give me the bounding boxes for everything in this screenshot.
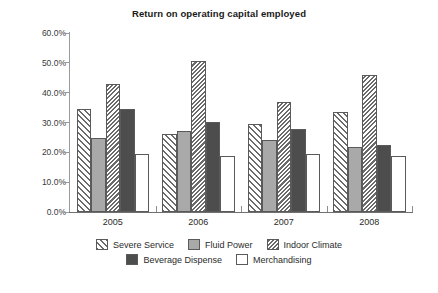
bar-group: 2006 xyxy=(156,33,242,212)
bar[interactable] xyxy=(333,112,348,212)
bar-group-bars xyxy=(327,33,419,212)
bar[interactable] xyxy=(248,124,263,212)
bar[interactable] xyxy=(206,122,221,212)
bar-group-bars xyxy=(70,33,162,212)
bar-group: 2008 xyxy=(327,33,413,212)
legend-entry[interactable]: Merchandising xyxy=(236,254,312,265)
legend-swatch-icon xyxy=(188,239,200,250)
y-tick-label: 20.0% xyxy=(42,147,66,157)
legend-swatch-icon xyxy=(267,239,279,250)
bar[interactable] xyxy=(306,154,321,212)
bar[interactable] xyxy=(162,134,177,212)
bar[interactable] xyxy=(191,61,206,212)
chart-title: Return on operating capital employed xyxy=(0,8,438,19)
y-tick-mark xyxy=(64,152,69,153)
x-tick-label: 2006 xyxy=(156,217,242,227)
bar-group-bars xyxy=(156,33,248,212)
bar[interactable] xyxy=(77,109,92,212)
axis-end-tick xyxy=(412,206,413,212)
bar[interactable] xyxy=(220,156,235,212)
y-tick-mark xyxy=(64,62,69,63)
y-tick-mark xyxy=(64,33,69,34)
legend-label: Fluid Power xyxy=(205,240,253,250)
group-separator-tick xyxy=(241,206,242,212)
bar[interactable] xyxy=(177,131,192,212)
bar[interactable] xyxy=(362,75,377,212)
bar[interactable] xyxy=(391,156,406,212)
legend-entry[interactable]: Severe Service xyxy=(96,239,174,250)
chart-legend: Severe ServiceFluid PowerIndoor Climate … xyxy=(0,239,438,269)
y-tick-mark xyxy=(64,122,69,123)
bar[interactable] xyxy=(262,140,277,212)
y-tick-label: 30.0% xyxy=(42,118,66,128)
legend-label: Merchandising xyxy=(253,255,312,265)
x-axis-line xyxy=(69,212,413,213)
chart-figure: Return on operating capital employed 60.… xyxy=(0,0,438,293)
x-tick-label: 2008 xyxy=(327,217,413,227)
y-tick-label: 60.0% xyxy=(42,28,66,38)
bar[interactable] xyxy=(91,138,106,212)
bar-group: 2007 xyxy=(241,33,327,212)
legend-label: Severe Service xyxy=(113,240,174,250)
x-tick-label: 2007 xyxy=(241,217,327,227)
bar[interactable] xyxy=(106,84,121,212)
bar-group-bars xyxy=(241,33,333,212)
bar[interactable] xyxy=(120,109,135,212)
y-tick-label: 50.0% xyxy=(42,58,66,68)
group-separator-tick xyxy=(327,206,328,212)
x-tick-label: 2005 xyxy=(70,217,156,227)
legend-entry[interactable]: Beverage Dispense xyxy=(126,254,222,265)
y-tick-mark xyxy=(64,212,69,213)
bar[interactable] xyxy=(348,147,363,212)
legend-entry[interactable]: Indoor Climate xyxy=(267,239,343,250)
y-tick-mark xyxy=(64,182,69,183)
legend-swatch-icon xyxy=(236,254,248,265)
group-separator-tick xyxy=(156,206,157,212)
bar[interactable] xyxy=(377,145,392,212)
legend-label: Indoor Climate xyxy=(284,240,343,250)
y-tick-mark xyxy=(64,92,69,93)
plot-area: 2005200620072008 xyxy=(70,33,412,212)
legend-row-top: Severe ServiceFluid PowerIndoor Climate xyxy=(0,239,438,250)
legend-swatch-icon xyxy=(96,239,108,250)
legend-row-bottom: Beverage DispenseMerchandising xyxy=(0,254,438,265)
bar[interactable] xyxy=(291,129,306,212)
bar[interactable] xyxy=(277,102,292,212)
legend-swatch-icon xyxy=(126,254,138,265)
legend-entry[interactable]: Fluid Power xyxy=(188,239,253,250)
legend-label: Beverage Dispense xyxy=(143,255,222,265)
y-tick-label: 10.0% xyxy=(42,177,66,187)
bar[interactable] xyxy=(135,154,150,212)
y-tick-label: 40.0% xyxy=(42,88,66,98)
bar-group: 2005 xyxy=(70,33,156,212)
